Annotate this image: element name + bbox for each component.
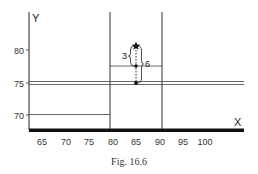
- x-tick-label-80: 80: [108, 137, 118, 147]
- x-tick-label-85: 85: [131, 137, 141, 147]
- x-axis-label: X: [234, 116, 242, 128]
- x-tick-label-95: 95: [178, 137, 188, 147]
- x-tick-label-100: 100: [197, 137, 212, 147]
- brace-left-icon: [129, 46, 135, 66]
- x-tick-label-65: 65: [37, 137, 47, 147]
- brace-left-label: 3: [122, 51, 127, 61]
- x-tick-label-75: 75: [84, 137, 94, 147]
- figure-caption: Fig. 16.6: [111, 156, 147, 167]
- figure-canvas: Y X 80 75 70 65 70 75 80 85 90 95 100 3 …: [0, 0, 258, 174]
- y-tick-label-80: 80: [14, 46, 24, 56]
- y-tick-label-70: 70: [14, 111, 24, 121]
- y-axis-label: Y: [32, 12, 40, 24]
- dot-marker-78: [134, 64, 138, 68]
- dot-marker-75: [134, 81, 137, 84]
- brace-right-icon: [138, 46, 144, 83]
- y-tick-label-75: 75: [14, 79, 24, 89]
- x-axis: [29, 129, 244, 133]
- x-tick-label-90: 90: [155, 137, 165, 147]
- star-marker: [132, 42, 141, 50]
- brace-right-label: 6: [145, 59, 150, 69]
- x-tick-label-70: 70: [61, 137, 71, 147]
